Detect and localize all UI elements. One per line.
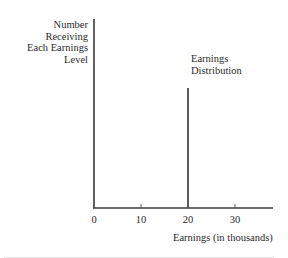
- y-axis-label: Number Receiving Each Earnings Level: [27, 19, 88, 65]
- x-tick-label-0: 0: [91, 214, 96, 225]
- distribution-annotation: Earnings Distribution: [191, 53, 242, 76]
- annotation-line: Distribution: [191, 65, 242, 77]
- y-axis-label-line: Number: [27, 19, 88, 31]
- x-tick-label-10: 10: [136, 214, 147, 225]
- earnings-distribution-chart: Number Receiving Each Earnings Level Ear…: [0, 0, 288, 258]
- y-axis-label-line: Level: [27, 54, 88, 66]
- x-tick-label-20: 20: [183, 214, 194, 225]
- annotation-line: Earnings: [191, 53, 242, 65]
- x-tick-label-30: 30: [230, 214, 241, 225]
- x-axis-label: Earnings (in thousands): [173, 232, 273, 243]
- y-axis-label-line: Each Earnings: [27, 42, 88, 54]
- y-axis-label-line: Receiving: [27, 31, 88, 43]
